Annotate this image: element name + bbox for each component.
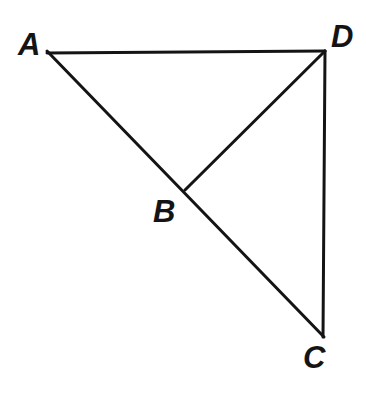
geometry-figure-svg: [0, 0, 366, 393]
segment-AD: [47, 51, 325, 53]
vertex-label-b: B: [153, 196, 175, 227]
vertex-label-c: C: [303, 342, 325, 373]
vertex-label-a: A: [18, 29, 40, 60]
segment-DC: [323, 51, 325, 337]
segment-group: [47, 51, 325, 337]
vertex-label-d: D: [331, 21, 353, 52]
geometry-figure: A B C D: [0, 0, 366, 393]
segment-BD: [185, 51, 325, 190]
